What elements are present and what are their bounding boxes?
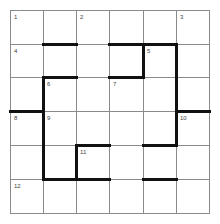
grid-cell[interactable]	[176, 179, 209, 213]
clue-number: 8	[14, 115, 17, 121]
clue-number: 7	[113, 81, 116, 87]
grid-line	[143, 10, 144, 214]
thick-border	[175, 110, 211, 113]
grid-cell[interactable]	[10, 145, 43, 179]
clue-number: 4	[14, 48, 17, 54]
grid-cell[interactable]	[10, 77, 43, 111]
thick-border	[42, 43, 78, 46]
grid-cell[interactable]	[43, 179, 76, 213]
grid-cell[interactable]	[109, 179, 143, 213]
grid-cell[interactable]	[43, 145, 76, 179]
clue-number: 6	[47, 81, 50, 87]
clue-number: 11	[80, 149, 86, 155]
grid-cell[interactable]	[76, 111, 109, 145]
grid-cell[interactable]	[109, 111, 143, 145]
grid-cell[interactable]	[43, 10, 76, 44]
thick-border	[142, 43, 145, 79]
grid-cell[interactable]	[109, 10, 143, 44]
thick-border	[175, 43, 178, 147]
grid-cell[interactable]	[143, 145, 176, 179]
clue-number: 9	[47, 115, 50, 121]
grid-cell[interactable]	[76, 44, 109, 77]
grid-line	[10, 213, 210, 214]
clue-number: 1	[14, 14, 17, 20]
grid-line	[76, 10, 77, 214]
thick-border	[9, 110, 45, 113]
puzzle-grid: 123456789101112	[0, 0, 220, 224]
thick-border	[75, 144, 111, 147]
clue-number: 10	[180, 115, 187, 121]
thick-border	[42, 76, 45, 181]
grid-cell[interactable]	[143, 77, 176, 111]
grid-cell[interactable]	[143, 111, 176, 145]
thick-border	[142, 178, 178, 181]
grid-cell[interactable]	[109, 145, 143, 179]
grid-cell[interactable]	[176, 77, 209, 111]
grid-cell[interactable]	[176, 44, 209, 77]
grid-cell[interactable]	[143, 10, 176, 44]
grid-cell[interactable]	[43, 44, 76, 77]
grid-cell[interactable]	[143, 179, 176, 213]
thick-border	[108, 76, 145, 79]
grid-cell[interactable]	[109, 44, 143, 77]
thick-border	[75, 144, 78, 181]
clue-number: 2	[80, 14, 83, 20]
grid-line	[109, 10, 110, 214]
thick-border	[142, 144, 178, 147]
thick-border	[42, 76, 78, 79]
clue-number: 5	[147, 48, 150, 54]
grid-cell[interactable]	[76, 179, 109, 213]
grid-cell[interactable]	[76, 77, 109, 111]
grid-cell[interactable]	[176, 145, 209, 179]
grid-line	[10, 10, 210, 11]
clue-number: 12	[14, 183, 21, 189]
clue-number: 3	[180, 14, 183, 20]
